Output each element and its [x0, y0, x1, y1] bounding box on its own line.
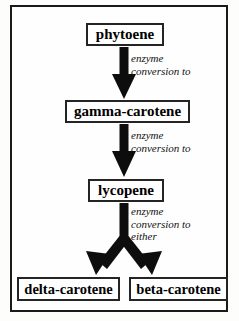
arrow-caption-gamma-to-lycopene: enzyme conversion to — [131, 129, 191, 154]
node-beta-carotene[interactable]: beta-carotene — [129, 277, 228, 301]
caption-line: conversion to — [131, 218, 191, 231]
figure-frame — [10, 5, 228, 312]
caption-line: conversion to — [131, 65, 191, 78]
node-gamma-carotene-label: gamma-carotene — [74, 104, 181, 119]
node-gamma-carotene[interactable]: gamma-carotene — [65, 100, 190, 123]
caption-line: enzyme — [131, 205, 191, 218]
caption-line: conversion to — [131, 142, 191, 155]
caption-line: enzyme — [131, 52, 191, 65]
node-phytoene[interactable]: phytoene — [86, 23, 164, 46]
arrow-caption-phytoene-to-gamma: enzyme conversion to — [131, 52, 191, 77]
caption-line: enzyme — [131, 129, 191, 142]
node-beta-carotene-label: beta-carotene — [136, 282, 220, 297]
node-lycopene-label: lycopene — [98, 183, 154, 198]
node-delta-carotene[interactable]: delta-carotene — [17, 277, 120, 301]
pathway-figure: phytoene gamma-carotene lycopene delta-c… — [0, 0, 239, 321]
node-delta-carotene-label: delta-carotene — [24, 282, 112, 297]
arrow-caption-lycopene-fork: enzyme conversion to either — [131, 205, 191, 243]
caption-line: either — [131, 230, 191, 243]
node-phytoene-label: phytoene — [96, 27, 154, 42]
node-lycopene[interactable]: lycopene — [88, 179, 164, 202]
